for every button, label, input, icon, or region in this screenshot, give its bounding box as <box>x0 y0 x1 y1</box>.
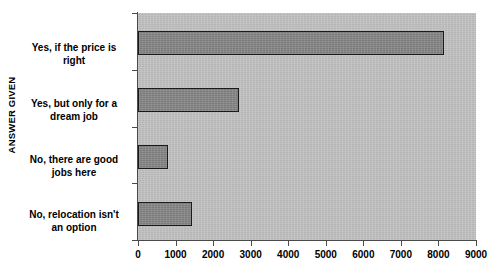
y-axis-category-labels: Yes, if the price is right Yes, but only… <box>14 13 134 240</box>
x-axis-tick <box>438 241 439 246</box>
category-label: No, there are good jobs here <box>14 154 134 179</box>
x-axis-tick <box>401 241 402 246</box>
y-axis-tick <box>132 183 138 184</box>
y-axis-tick <box>132 13 138 14</box>
y-axis-tick <box>132 127 138 128</box>
category-label: No, relocation isn't an option <box>14 209 134 234</box>
category-label-line2: an option <box>14 222 134 235</box>
y-axis-tick <box>132 70 138 71</box>
bar <box>138 145 168 169</box>
x-axis-tick <box>476 241 477 246</box>
x-axis-line <box>137 240 477 241</box>
category-label-line1: Yes, but only for a <box>31 98 117 109</box>
x-axis-tick <box>176 241 177 246</box>
x-axis-tick <box>138 241 139 246</box>
bar <box>138 88 239 112</box>
x-axis-tick <box>363 241 364 246</box>
plot-area <box>138 13 476 240</box>
bar-chart: ANSWER GIVEN Yes, if the price is right … <box>0 0 494 271</box>
category-label: Yes, but only for a dream job <box>14 98 134 123</box>
category-label-line2: dream job <box>14 111 134 124</box>
x-axis-tick <box>251 241 252 246</box>
category-label-line1: No, relocation isn't <box>29 209 119 220</box>
x-axis-tick <box>213 241 214 246</box>
category-label-line1: No, there are good <box>30 154 118 165</box>
x-axis-tick <box>288 241 289 246</box>
category-label-line2: jobs here <box>14 167 134 180</box>
category-label: Yes, if the price is right <box>14 42 134 67</box>
bar <box>138 31 444 55</box>
category-label-line2: right <box>14 55 134 68</box>
category-label-line1: Yes, if the price is <box>32 42 116 53</box>
x-axis-tick <box>326 241 327 246</box>
bar <box>138 202 192 226</box>
x-axis-tick-label: 9000 <box>446 249 494 261</box>
y-axis-tick <box>132 240 138 241</box>
